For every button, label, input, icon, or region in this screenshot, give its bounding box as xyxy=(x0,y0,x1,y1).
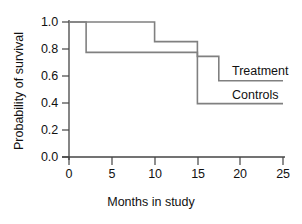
x-tick-label-5: 20 xyxy=(228,168,252,181)
series-label-treatment: Treatment xyxy=(232,64,289,78)
y-tick-label-1: 1.0 xyxy=(28,16,58,29)
x-axis-title: Months in study xyxy=(0,195,302,209)
y-axis-ticks xyxy=(62,22,69,157)
x-tick-label-6: 25 xyxy=(271,168,295,181)
y-tick-label-3: 0.6 xyxy=(28,70,58,83)
survival-curve-chart: 1.0 0.8 0.6 0.4 0.2 0.0 0 5 10 15 20 25 … xyxy=(0,0,302,224)
y-tick-label-6: 0.0 xyxy=(28,151,58,164)
x-tick-label-4: 15 xyxy=(186,168,210,181)
x-tick-label-3: 10 xyxy=(143,168,167,181)
x-tick-label-1: 0 xyxy=(57,168,81,181)
x-tick-label-2: 5 xyxy=(100,168,124,181)
x-axis-ticks xyxy=(69,157,283,165)
y-tick-label-5: 0.2 xyxy=(28,124,58,137)
plot-area xyxy=(0,0,302,224)
series-label-controls: Controls xyxy=(232,88,279,102)
y-tick-label-2: 0.8 xyxy=(28,43,58,56)
y-axis-title: Probability of survival xyxy=(12,32,26,150)
y-tick-label-4: 0.4 xyxy=(28,97,58,110)
